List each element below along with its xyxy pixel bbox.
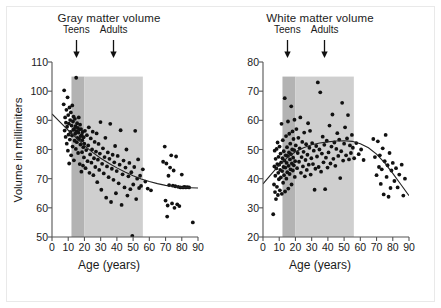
x-tick-label: 70 [160, 242, 172, 253]
annotation-label-adults: Adults [311, 25, 339, 35]
x-tick-label: 50 [127, 242, 139, 253]
y-tick-label: 70 [247, 86, 259, 97]
x-tick-label: 0 [260, 242, 266, 253]
y-tick-label: 50 [247, 144, 259, 155]
annotation-arrow-teens [72, 40, 81, 58]
x-tick-label: 80 [387, 242, 399, 253]
y-tick-label: 100 [30, 86, 48, 97]
x-tick-label: 90 [403, 242, 415, 253]
annotation-arrow-adults [320, 40, 329, 58]
plot-area-white-matter: 203040506070800102030405060708090TeensAd… [263, 62, 409, 237]
plot-area-gray-matter: 50607080901001100102030405060708090Teens… [52, 62, 198, 237]
y-tick-label: 60 [36, 203, 48, 214]
panel-white-matter: White matter volume 20304050607080010203… [211, 0, 429, 296]
x-tick-label: 10 [273, 242, 285, 253]
x-axis-label-gray: Age (years) [0, 258, 218, 272]
y-tick-label: 40 [247, 173, 259, 184]
y-tick-label: 50 [36, 232, 48, 243]
y-tick-label: 90 [36, 115, 48, 126]
axes [263, 62, 409, 237]
y-tick-label: 80 [247, 57, 259, 68]
x-axis-label-white: Age (years) [211, 258, 429, 272]
y-axis-label-gray: Volume in millimiters [10, 62, 26, 237]
x-tick-label: 40 [111, 242, 123, 253]
annotation-arrow-teens [283, 40, 292, 58]
x-tick-label: 20 [290, 242, 302, 253]
y-tick-label: 70 [36, 173, 48, 184]
figure-root: Gray matter volume Volume in millimiters… [0, 0, 441, 308]
annotation-arrow-adults [109, 40, 118, 58]
x-tick-label: 60 [354, 242, 366, 253]
x-tick-label: 70 [371, 242, 383, 253]
y-axis-label-text-gray: Volume in millimiters [12, 97, 24, 202]
annotation-label-teens: Teens [63, 25, 90, 35]
y-tick-label: 20 [247, 232, 259, 243]
x-tick-label: 50 [338, 242, 350, 253]
y-tick-label: 110 [31, 57, 48, 68]
x-tick-label: 30 [306, 242, 318, 253]
x-tick-label: 40 [322, 242, 334, 253]
x-tick-label: 30 [95, 242, 107, 253]
panel-title-white-matter: White matter volume [211, 12, 429, 24]
annotation-label-adults: Adults [100, 25, 128, 35]
panel-gray-matter: Gray matter volume Volume in millimiters… [0, 0, 218, 296]
panel-title-gray-matter: Gray matter volume [0, 12, 218, 24]
x-tick-label: 0 [49, 242, 55, 253]
annotation-label-teens: Teens [274, 25, 301, 35]
x-tick-label: 60 [143, 242, 155, 253]
x-tick-label: 90 [192, 242, 204, 253]
x-tick-label: 80 [176, 242, 188, 253]
axes [52, 62, 198, 237]
x-tick-label: 10 [62, 242, 74, 253]
y-tick-label: 80 [36, 144, 48, 155]
y-tick-label: 60 [247, 115, 259, 126]
x-tick-label: 20 [79, 242, 91, 253]
y-tick-label: 30 [247, 203, 259, 214]
